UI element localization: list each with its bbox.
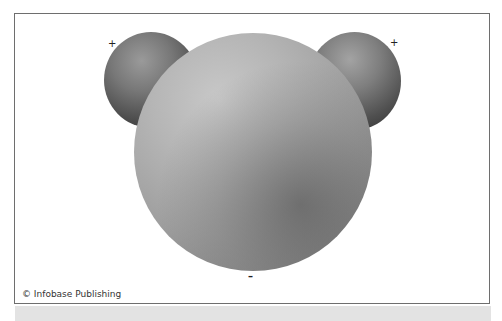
copyright-credit: © Infobase Publishing (22, 289, 121, 299)
oxygen-atom (134, 33, 372, 271)
bottom-band (15, 306, 491, 321)
positive-charge-label-left: + (108, 39, 116, 49)
positive-charge-label-right: + (390, 38, 398, 48)
negative-charge-label: – (248, 272, 253, 282)
